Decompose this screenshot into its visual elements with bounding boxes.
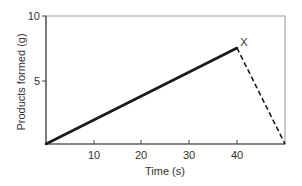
y-tick-label-5: 5	[34, 75, 40, 87]
chart: 10 5 10 20 30 40 Time (s) Products forme…	[0, 0, 302, 186]
x-tick-label-30: 30	[183, 149, 195, 161]
y-tick-label-10: 10	[28, 10, 40, 22]
x-tick-label-10: 10	[88, 149, 100, 161]
dashed-line-series	[237, 48, 285, 144]
y-axis-label: Products formed (g)	[15, 33, 27, 130]
point-label-x: X	[240, 36, 248, 48]
x-axis-label: Time (s)	[145, 165, 185, 177]
x-tick-label-20: 20	[135, 149, 147, 161]
x-tick-label-40: 40	[231, 149, 243, 161]
solid-line-series	[46, 48, 237, 144]
